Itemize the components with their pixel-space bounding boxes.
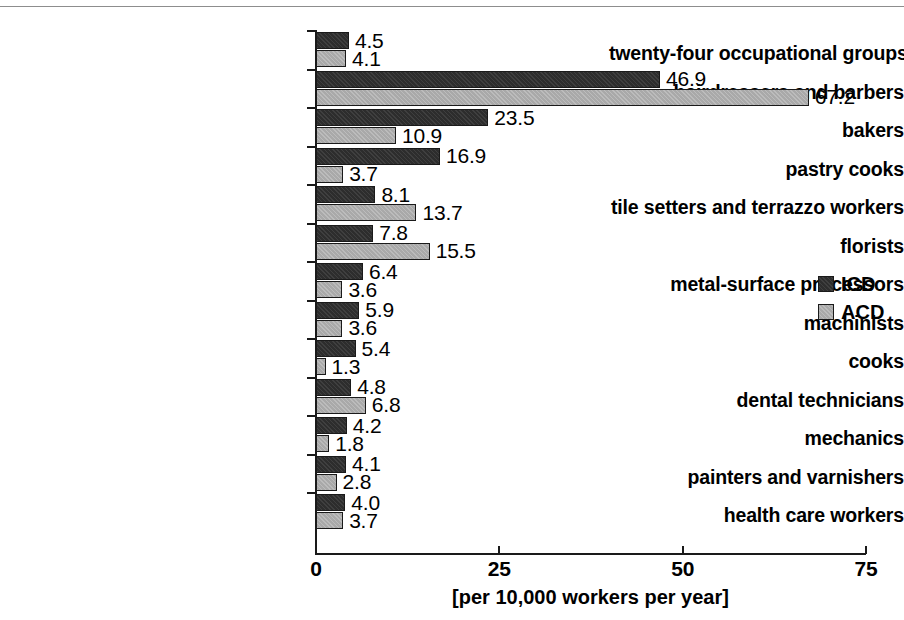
bar-value-label: 13.7 [422,201,462,225]
value-axis-line [315,553,866,555]
category-label: tile setters and terrazzo workers [609,196,904,219]
category-axis-tick [307,454,316,456]
bar-value-label: 10.9 [402,124,442,148]
bar-acd[interactable] [316,50,346,67]
bar-value-label: 8.1 [381,183,410,207]
legend-item-acd[interactable]: ACD [818,300,902,324]
figure-container: twenty-four occupational groupshairdress… [0,0,904,620]
bar-acd[interactable] [316,127,396,144]
category-axis-tick [307,146,316,148]
bar-acd[interactable] [316,435,329,452]
chart-legend: ICD ACD [818,272,902,328]
category-axis-tick [307,261,316,263]
category-label: bakers [609,119,904,142]
bar-value-label: 16.9 [446,144,486,168]
category-label: dental technicians [609,389,904,412]
value-axis-tick-label: 25 [488,557,511,581]
bar-acd[interactable] [316,166,343,183]
bar-value-label: 5.4 [362,337,391,361]
bar-acd[interactable] [316,281,342,298]
bar-value-label: 3.7 [349,162,378,186]
category-label: twenty-four occupational groups [609,42,904,65]
bar-value-label: 7.8 [379,221,408,245]
value-axis-tick [315,546,317,554]
legend-label-acd: ACD [841,302,884,322]
bar-value-label: 23.5 [494,106,534,130]
bar-icd[interactable] [316,379,351,396]
category-label: health care workers [609,504,904,527]
bar-icd[interactable] [316,148,440,165]
category-axis-tick [307,223,316,225]
category-axis-tick [307,300,316,302]
category-label: pastry cooks [609,158,904,181]
bar-icd[interactable] [316,71,660,88]
category-axis-tick [307,415,316,417]
value-axis-tick [865,546,867,554]
bar-acd[interactable] [316,204,416,221]
category-label: mechanics [609,427,904,450]
category-axis-tick [307,30,316,32]
value-axis-tick-label: 50 [671,557,694,581]
x-axis-title: [per 10,000 workers per year] [315,586,866,609]
bar-acd[interactable] [316,320,342,337]
bar-chart-plot-area: twenty-four occupational groupshairdress… [0,0,904,620]
category-axis-tick [307,492,316,494]
bar-value-label: 4.1 [352,47,381,71]
bar-value-label: 3.7 [349,509,378,533]
legend-swatch-acd-icon [818,304,834,320]
bar-acd[interactable] [316,397,366,414]
value-axis-tick-label: 75 [855,557,878,581]
category-label: painters and varnishers [609,466,904,489]
category-label: cooks [609,350,904,373]
bar-value-label: 15.5 [436,239,476,263]
value-axis-tick [498,546,500,554]
category-label: florists [609,235,904,258]
category-axis-tick [307,69,316,71]
legend-item-icd[interactable]: ICD [818,272,902,296]
bar-icd[interactable] [316,494,345,511]
bar-acd[interactable] [316,358,326,375]
bar-acd[interactable] [316,474,337,491]
category-axis-tick [307,184,316,186]
value-axis-tick-label: 0 [310,557,321,581]
bar-value-label: 67.2 [815,85,855,109]
bar-value-label: 46.9 [666,67,706,91]
category-axis-tick [307,107,316,109]
category-axis-tick [307,338,316,340]
bar-acd[interactable] [316,243,430,260]
legend-label-icd: ICD [841,274,875,294]
bar-value-label: 1.3 [332,355,361,379]
category-axis-tick [307,377,316,379]
bar-icd[interactable] [316,186,375,203]
bar-acd[interactable] [316,89,809,106]
value-axis-tick [682,546,684,554]
bar-icd[interactable] [316,225,373,242]
bar-acd[interactable] [316,512,343,529]
legend-swatch-icd-icon [818,276,834,292]
bar-icd[interactable] [316,32,349,49]
